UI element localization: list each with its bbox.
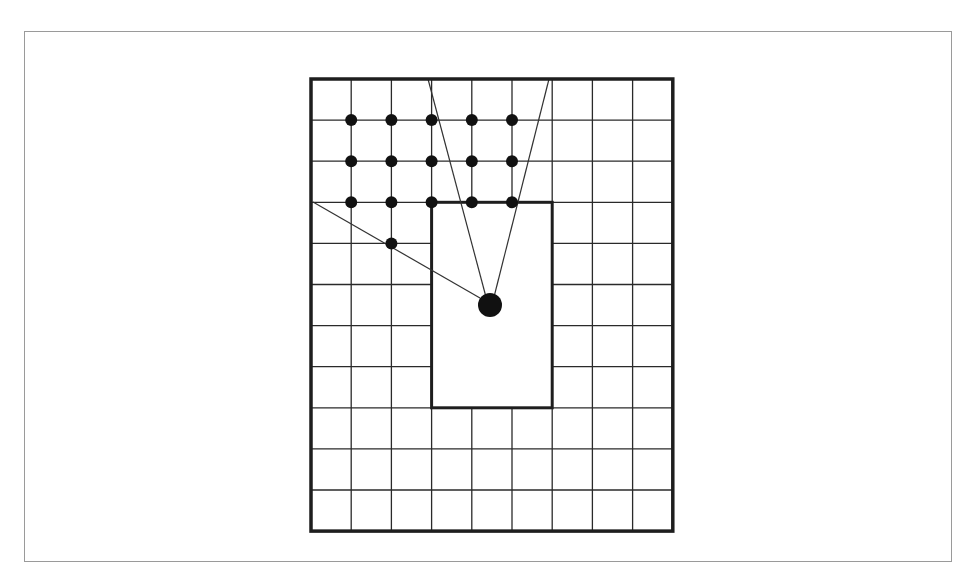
grid-diagram xyxy=(0,0,972,581)
grid-dot xyxy=(506,196,518,208)
grid-dot xyxy=(345,155,357,167)
source-point xyxy=(478,293,502,317)
grid-dot xyxy=(426,155,438,167)
grid-dot xyxy=(385,237,397,249)
grid-dot xyxy=(385,196,397,208)
grid-dot xyxy=(466,155,478,167)
grid-dot xyxy=(466,196,478,208)
grid-dot xyxy=(426,196,438,208)
grid-dot xyxy=(385,155,397,167)
grid-dot xyxy=(345,196,357,208)
grid-dot xyxy=(345,114,357,126)
grid-dot xyxy=(506,114,518,126)
grid-dot xyxy=(506,155,518,167)
grid-dot xyxy=(466,114,478,126)
grid-dot xyxy=(385,114,397,126)
grid-dot xyxy=(426,114,438,126)
